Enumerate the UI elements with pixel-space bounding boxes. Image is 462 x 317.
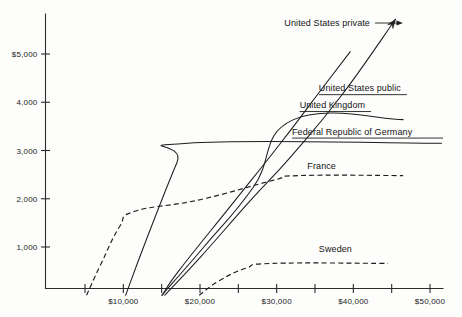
y-tick-label-2: 3,000	[16, 147, 37, 156]
y-tick-label-0: 1,000	[16, 243, 37, 252]
chart-axes	[46, 14, 444, 289]
line-chart: $10,000$20,000$30,000$40,000$50,0001,000…	[0, 0, 462, 317]
x-tick-label-3: $20,000	[185, 297, 216, 306]
series-label-united-states-public: United States public	[319, 83, 401, 93]
y-tick-label-3: 4,000	[16, 98, 37, 107]
chart-series-lines	[87, 19, 442, 295]
y-tick-label-4: $5,000	[12, 50, 38, 59]
x-tick-label-9: $50,000	[415, 297, 446, 306]
axis-lines	[46, 14, 444, 289]
series-line-united-states-private	[165, 19, 396, 295]
series-line-france	[87, 175, 404, 295]
series-label-united-kingdom: United Kingdom	[300, 100, 365, 110]
series-pointer-arrowhead	[396, 20, 403, 25]
x-tick-label-1: $10,000	[108, 297, 139, 306]
x-tick-label-5: $30,000	[262, 297, 293, 306]
series-label-united-states-private: United States private	[284, 18, 370, 28]
chart-series-labels: United States privateUnited States publi…	[284, 18, 443, 254]
series-label-france: France	[307, 161, 336, 171]
series-label-federal-republic-of-germany: Federal Republic of Germany	[292, 127, 413, 137]
y-tick-label-1: 2,000	[16, 195, 37, 204]
chart-container: $10,000$20,000$30,000$40,000$50,0001,000…	[0, 0, 462, 317]
series-line-sweden	[199, 263, 388, 295]
series-label-sweden: Sweden	[319, 244, 352, 254]
series-arrowhead-united-states-private	[388, 19, 396, 28]
x-tick-label-7: $40,000	[338, 297, 369, 306]
